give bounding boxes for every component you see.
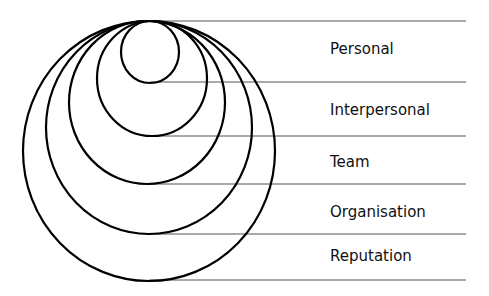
nested-circles-diagram	[0, 0, 489, 296]
label-organisation: Organisation	[330, 203, 426, 221]
circle-reputation	[23, 21, 275, 281]
label-personal: Personal	[330, 40, 394, 58]
label-team: Team	[330, 153, 370, 171]
label-reputation: Reputation	[330, 247, 412, 265]
circle-personal	[121, 21, 179, 83]
label-interpersonal: Interpersonal	[330, 101, 430, 119]
circle-interpersonal	[97, 21, 207, 136]
